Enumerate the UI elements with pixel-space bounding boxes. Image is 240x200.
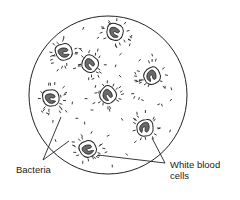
bacterium: [163, 86, 164, 88]
bacterium: [100, 32, 102, 33]
bacterium: [73, 145, 75, 146]
bacterium: [59, 111, 60, 113]
bacterium: [60, 106, 61, 108]
bacterium: [75, 48, 77, 49]
bacterium: [83, 27, 84, 29]
bacterium: [97, 37, 99, 38]
bacterium: [128, 40, 130, 41]
bacterium: [119, 75, 120, 77]
bacterium: [109, 109, 110, 111]
bacterium: [135, 72, 136, 74]
bacterium: [57, 42, 59, 44]
bacterium: [98, 68, 100, 69]
bacterium: [64, 94, 66, 95]
bacterium: [162, 104, 163, 106]
bacterium: [139, 82, 141, 83]
bacterium: [77, 155, 79, 156]
bacterium: [115, 65, 116, 67]
bacterium: [53, 43, 54, 45]
bacterium: [57, 69, 58, 71]
bacterium: [116, 46, 117, 48]
bacterium: [82, 137, 83, 139]
bacterium: [62, 66, 63, 68]
bacterium: [99, 56, 100, 58]
bacterium: [122, 119, 123, 121]
bacterium: [105, 152, 107, 153]
white-blood-cells-label-line2: cells: [170, 170, 220, 181]
bacterium: [135, 141, 137, 142]
bacterium: [55, 140, 56, 142]
bacterium: [43, 109, 44, 111]
bacterium: [170, 99, 171, 101]
bacterium: [98, 75, 99, 77]
bacterium: [134, 123, 136, 124]
bacterium: [134, 97, 135, 99]
bacterium: [140, 138, 141, 140]
bacterium: [120, 91, 122, 92]
bacterium: [93, 103, 95, 104]
bacterium: [160, 81, 162, 82]
bacterium: [137, 71, 139, 72]
bacterium: [158, 104, 160, 105]
bacterium: [95, 86, 96, 88]
bacterium: [50, 59, 52, 60]
bacterium: [122, 94, 124, 95]
bacterium: [170, 130, 171, 132]
white-blood-cell: [141, 65, 164, 87]
bacterium: [81, 135, 83, 137]
bacterium: [96, 72, 98, 73]
bacterium: [124, 40, 125, 42]
bacterium: [60, 104, 62, 105]
bacterium: [127, 31, 129, 32]
bacterium: [50, 52, 52, 53]
bacterium: [102, 84, 104, 86]
bacterium: [152, 54, 153, 56]
bacterium: [66, 111, 67, 113]
bacterium: [133, 130, 135, 131]
bacterium: [48, 113, 49, 115]
white-blood-cells-label-line1: White blood: [170, 159, 220, 170]
white-blood-cell: [136, 118, 155, 137]
white-blood-cell: [53, 41, 74, 62]
bacterium: [89, 51, 90, 53]
bacteria-label: Bacteria: [16, 164, 51, 175]
bacterium: [99, 145, 100, 147]
bacterium: [148, 85, 149, 87]
bacterium: [124, 22, 125, 24]
bacterium: [117, 100, 119, 101]
bacterium: [79, 139, 81, 140]
white-blood-cell: [41, 88, 60, 107]
bacterium: [104, 38, 106, 39]
bacterium: [41, 111, 43, 112]
bacterium: [110, 107, 111, 109]
bacterium: [93, 157, 94, 159]
bacterium: [131, 35, 132, 37]
bacterium: [142, 100, 144, 101]
bacterium: [41, 92, 43, 93]
bacterium: [156, 59, 157, 61]
bacterium: [137, 116, 139, 117]
bacterium: [82, 56, 84, 58]
bacterium: [99, 72, 101, 73]
bacterium: [51, 56, 53, 57]
bacterium: [73, 68, 75, 69]
bacterium: [46, 113, 48, 114]
bacterium: [116, 88, 118, 89]
bacterium: [91, 132, 92, 134]
bacterium: [63, 86, 65, 88]
bacterium: [120, 54, 122, 55]
bacterium: [94, 157, 96, 159]
bacterium: [149, 61, 150, 63]
bacterium: [129, 44, 130, 46]
bacterium: [107, 135, 109, 136]
bacterium: [113, 84, 114, 86]
bacterium: [154, 119, 155, 121]
white-blood-cells-label: White blood cells: [170, 159, 220, 181]
bacterium: [65, 92, 67, 93]
bacterium: [119, 87, 121, 88]
white-blood-cell: [77, 138, 99, 161]
bacterium: [65, 66, 66, 68]
bacterium: [98, 153, 100, 154]
bacterium: [61, 108, 62, 110]
bacterium: [126, 154, 128, 155]
